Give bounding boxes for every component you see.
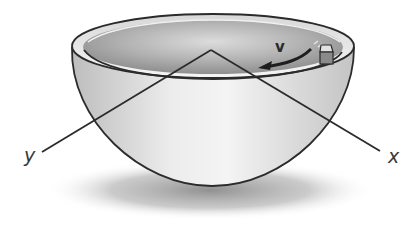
axis-y-label: y [23, 144, 36, 166]
velocity-label: v [275, 38, 285, 56]
bowl-diagram: v y x [0, 0, 414, 228]
axis-x-label: x [387, 145, 400, 167]
sliding-block [320, 45, 333, 64]
